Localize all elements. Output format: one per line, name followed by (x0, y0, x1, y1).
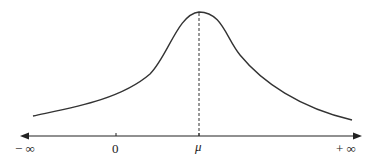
label-mu: μ (195, 140, 202, 153)
label-pos-infinity: + ∞ (336, 142, 356, 155)
density-curve (33, 12, 352, 120)
diagram-canvas (0, 0, 372, 159)
label-neg-infinity: − ∞ (15, 142, 35, 155)
left-arrow-icon (20, 133, 29, 140)
label-zero: 0 (112, 142, 119, 155)
right-arrow-icon (353, 133, 362, 140)
